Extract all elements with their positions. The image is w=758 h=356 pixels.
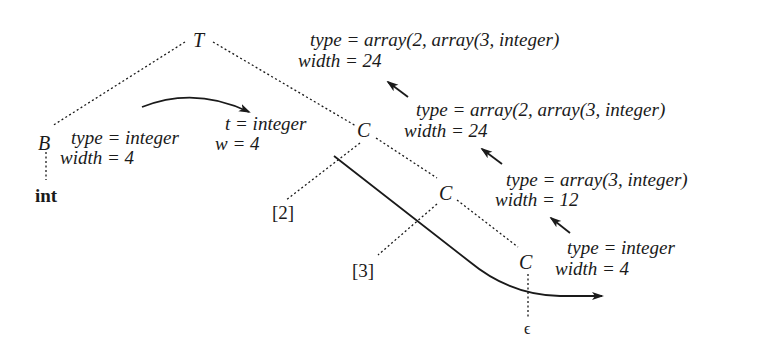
c3-type-label: type = integer: [567, 238, 675, 257]
node-int: int: [35, 186, 57, 205]
inherit-arrow: [142, 98, 249, 112]
node-dim-2: [2]: [272, 203, 294, 222]
node-b: B: [38, 133, 50, 153]
root-type-label: type = array(2, array(3, integer): [310, 30, 559, 49]
synth-arrow-3: [551, 218, 570, 233]
node-dim-3: [3]: [352, 261, 374, 280]
c3-width-label: width = 4: [555, 259, 629, 278]
c2-width-label: width = 12: [495, 190, 579, 209]
node-epsilon: ϵ: [524, 321, 530, 337]
root-width-label: width = 24: [298, 51, 382, 70]
edge-c1-dim1: [286, 143, 360, 200]
edge-t-b: [52, 42, 185, 126]
node-c3: C: [519, 252, 532, 272]
synth-arrow-2: [482, 149, 502, 164]
c2-type-label: type = array(3, integer): [506, 170, 688, 189]
edge-c1-c2: [376, 138, 437, 178]
node-c1: C: [357, 120, 370, 140]
inherited-t-label: t = integer: [225, 114, 306, 133]
c1-width-label: width = 24: [404, 121, 488, 140]
tree-edges: [46, 42, 528, 318]
b-type-label: type = integer: [71, 128, 179, 147]
node-t: T: [193, 30, 204, 50]
synth-arrow-1: [388, 82, 408, 97]
inherited-w-label: w = 4: [215, 134, 260, 153]
node-c2: C: [439, 183, 452, 203]
b-width-label: width = 4: [60, 148, 134, 167]
c1-type-label: type = array(2, array(3, integer): [416, 100, 665, 119]
